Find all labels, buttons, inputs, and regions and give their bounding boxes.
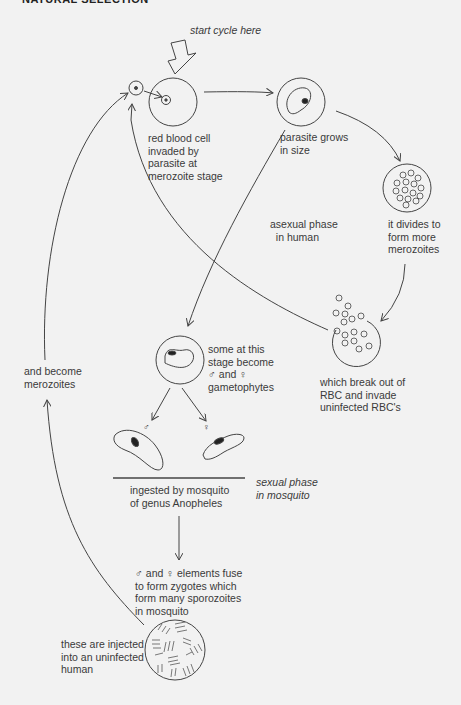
gametophyte-cell-icon: [156, 336, 204, 384]
female-gametocyte-icon: [203, 434, 244, 459]
merozoite-icon: [129, 81, 143, 95]
fuse-label: ♂ and ♀ elements fuse to form zygotes wh…: [135, 567, 242, 617]
female-symbol: ♀: [203, 421, 210, 434]
dividing-cell-icon: [383, 164, 431, 212]
rbc-invaded-label: red blood cell invaded by parasite at me…: [148, 132, 223, 182]
become-merozoites-label: and become merozoites: [24, 365, 82, 390]
start-cycle-label: start cycle here: [190, 24, 261, 37]
rbc-rupture-icon: [332, 295, 380, 367]
rbc-invaded-icon: [149, 78, 197, 126]
gametophytes-label: some at this stage become ♂ and ♀ gameto…: [208, 343, 274, 393]
asexual-phase-label: asexual phase in human: [270, 218, 338, 243]
male-symbol: ♂: [143, 421, 150, 434]
start-arrow-icon: [168, 40, 196, 74]
break-out-label: which break out of RBC and invade uninfe…: [320, 376, 405, 414]
parasite-grows-icon: [277, 78, 325, 126]
sexual-phase-label: sexual phase in mosquito: [256, 476, 318, 501]
parasite-grows-label: parasite grows in size: [280, 131, 348, 156]
male-gametocyte-icon: [114, 430, 163, 470]
sporozoite-cell-icon: [145, 620, 205, 680]
ingested-label: ingested by mosquito of genus Anopheles: [130, 484, 229, 509]
divides-label: it divides to form more merozoites: [388, 218, 441, 256]
injected-label: these are injected into an uninfected hu…: [61, 638, 144, 676]
